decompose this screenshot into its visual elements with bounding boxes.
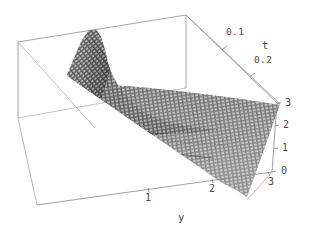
t-axis-label: t [262, 40, 269, 51]
t-tick-02 [250, 73, 255, 77]
z-tick-label-1: 1 [282, 143, 288, 153]
y-tick-label-2: 2 [209, 184, 215, 194]
y-tick-label-1: 1 [145, 193, 151, 203]
z-tick-label-0: 0 [281, 166, 287, 176]
y-tick-label-3: 3 [268, 177, 274, 187]
t-tick-01 [222, 46, 227, 50]
t-tick-label-0.1: 0.1 [226, 27, 244, 37]
z-tick-label-3: 3 [285, 98, 291, 108]
z-tick-label-2: 2 [283, 120, 289, 130]
z-tick-0 [272, 171, 276, 172]
z-tick-1 [274, 148, 278, 149]
surface-mesh [18, 30, 280, 205]
t-tick-label-0.2: 0.2 [254, 55, 272, 65]
plot-3d-surface: 0.1 0.2 t 3 2 1 0 1 2 3 y [0, 0, 311, 248]
y-axis-label: y [178, 212, 185, 223]
plot-canvas [0, 0, 311, 248]
